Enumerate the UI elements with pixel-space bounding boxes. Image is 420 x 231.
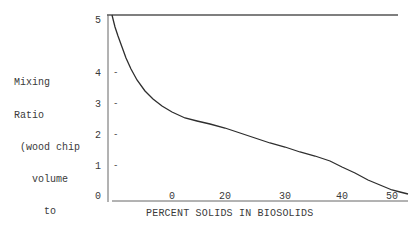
y-tick-mark: - xyxy=(113,161,118,171)
y-tick-label-3: 3 xyxy=(93,99,103,110)
y-tick-label-2: 2 xyxy=(93,130,103,141)
y-axis-title-line: Ratio xyxy=(14,111,94,122)
x-tick-label-50: 50 xyxy=(386,191,398,202)
y-axis-title-line: to xyxy=(14,207,94,218)
x-tick-label-30: 30 xyxy=(279,191,291,202)
y-tick-mark: - xyxy=(113,68,118,78)
y-axis-title: Mixing Ratio (wood chip volume to biosol… xyxy=(14,57,94,231)
y-tick-label-5: 5 xyxy=(93,15,103,26)
y-axis-title-line: (wood chip xyxy=(14,143,94,154)
y-axis-title-line: Mixing xyxy=(14,78,94,89)
mixing-ratio-chart: Mixing Ratio (wood chip volume to biosol… xyxy=(0,0,420,231)
x-axis-title: PERCENT SOLIDS IN BIOSOLIDS xyxy=(146,208,313,219)
y-axis-title-line: volume xyxy=(14,175,94,186)
x-tick-label-20: 20 xyxy=(219,191,231,202)
y-tick-label-4: 4 xyxy=(93,68,103,79)
y-tick-label-1: 1 xyxy=(93,161,103,172)
y-tick-mark: - xyxy=(113,130,118,140)
x-tick-label-40: 40 xyxy=(336,191,348,202)
x-tick-label-0: 0 xyxy=(169,191,175,202)
y-tick-mark: - xyxy=(113,99,118,109)
y-tick-label-0: 0 xyxy=(93,191,103,202)
mixing-ratio-curve xyxy=(112,15,408,194)
